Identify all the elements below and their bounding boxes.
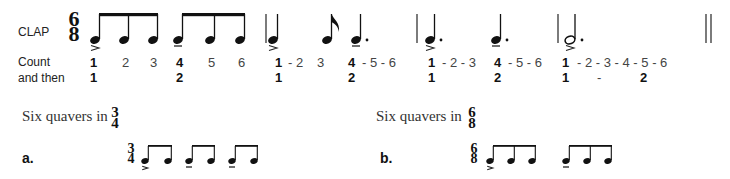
accent-mark (91, 46, 99, 51)
accent-mark (142, 166, 148, 170)
count-number: 4 (176, 55, 183, 70)
augmentation-dot (581, 39, 584, 42)
accent-mark (487, 166, 493, 170)
count-number: 2 (122, 55, 129, 70)
example-a-heading: Six quavers in (22, 108, 108, 125)
augmentation-dot (366, 39, 369, 42)
augmentation-dot (440, 39, 443, 42)
count-number: 5 (208, 55, 215, 70)
example-b-heading: Six quavers in (376, 108, 462, 125)
then-count: 2 (348, 70, 355, 85)
then-count: 2 (176, 70, 183, 85)
accent-mark (426, 46, 434, 51)
then-count: 1 (275, 70, 282, 85)
count-number: 6 (238, 55, 245, 70)
count-number: 1 (428, 55, 435, 70)
count-number: 3 (150, 55, 157, 70)
beam (235, 145, 258, 147)
count-number: 1 (562, 55, 569, 70)
beam (182, 13, 245, 16)
example-b-time-signature: 6 8 (468, 144, 480, 164)
count-number: - 2 - 3 - 4 - 5 - 6 (577, 55, 667, 70)
and-then-label: and then (18, 71, 65, 85)
beam (493, 145, 536, 147)
beam (192, 145, 215, 147)
then-count: 2 (494, 70, 501, 85)
count-number: 1 (90, 55, 97, 70)
example-b-heading-time-signature: 6 8 (466, 107, 478, 129)
then-count: 2 (640, 70, 647, 85)
count-number: 4 (494, 55, 501, 70)
count-number: - 2 - 3 (442, 55, 476, 70)
beam (148, 145, 172, 147)
then-count: 1 (90, 70, 97, 85)
quaver-flag (332, 14, 340, 32)
beam (99, 13, 158, 16)
example-a-letter: a. (22, 150, 34, 166)
note-head-open (564, 35, 576, 46)
ts-bottom: 4 (125, 154, 137, 164)
accent-mark (566, 46, 574, 51)
example-a-time-signature: 3 4 (125, 144, 137, 164)
then-count: 1 (562, 70, 569, 85)
ts-bottom: 8 (466, 118, 478, 129)
count-label: Count (18, 55, 50, 69)
then-count: 1 (428, 70, 435, 85)
augmentation-dot (506, 39, 509, 42)
count-number: 4 (348, 55, 355, 70)
example-a-heading-time-signature: 3 4 (109, 107, 121, 129)
then-count: - (597, 70, 601, 85)
notation-staff (0, 0, 730, 179)
count-number: - 5 - 6 (508, 55, 542, 70)
example-b-letter: b. (380, 150, 392, 166)
ts-bottom: 8 (468, 154, 480, 164)
ts-bottom: 4 (109, 118, 121, 129)
count-number: - 5 - 6 (362, 55, 396, 70)
count-number: 1 (275, 55, 282, 70)
count-number: 3 (317, 55, 324, 70)
accent-mark (269, 46, 277, 51)
count-number: - 2 (288, 55, 303, 70)
beam (569, 145, 612, 147)
